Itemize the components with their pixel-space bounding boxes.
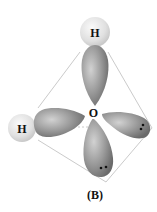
orbital-lobe-top xyxy=(82,45,109,106)
hydrogen-atom-left: H xyxy=(8,114,36,142)
figure-caption: (B) xyxy=(87,188,103,202)
atom-label: H xyxy=(90,26,100,40)
orbital-lobe-left xyxy=(34,108,85,137)
atom-label: H xyxy=(17,122,27,136)
hydrogen-atom-top: H xyxy=(80,17,110,47)
oxygen-atom-label: O xyxy=(89,106,98,120)
water-orbital-diagram: H H O (B) xyxy=(0,0,157,212)
